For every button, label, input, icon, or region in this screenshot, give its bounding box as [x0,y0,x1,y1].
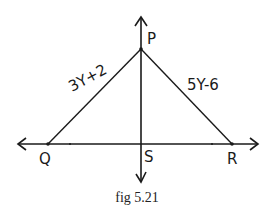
label-side-pq: 3Y+2 [65,60,109,95]
label-side-pr: 5Y-6 [187,76,219,94]
point-q [46,142,50,146]
tick-mark [211,143,213,145]
figure-caption: fig 5.21 [0,190,274,206]
point-p [139,47,143,51]
tick-mark [69,143,71,145]
label-q: Q [39,150,51,168]
label-r: R [227,150,237,168]
point-r [230,142,234,146]
label-s: S [144,148,154,166]
triangle-diagram: P Q R S 3Y+2 5Y-6 [0,0,274,214]
label-p: P [147,30,156,48]
side-pr [141,49,232,144]
